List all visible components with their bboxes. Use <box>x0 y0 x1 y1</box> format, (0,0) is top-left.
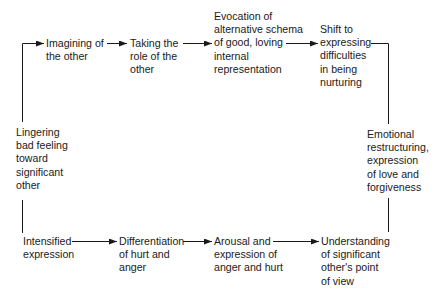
node-shift-expressing-difficulties: Shift to expressing difficulties in bein… <box>320 23 371 89</box>
node-differentiation-hurt-anger: Differentiation of hurt and anger <box>119 235 184 275</box>
line-shift-to-emotional <box>371 44 389 125</box>
arrow-lingering-to-imagining <box>23 44 45 123</box>
node-evocation-alternative-schema: Evocation of alternative schema of good,… <box>214 10 303 76</box>
node-imagining-of-other: Imagining of the other <box>46 37 104 63</box>
node-arousal-expression: Arousal and expression of anger and hurt <box>214 235 283 275</box>
node-understanding-significant-other: Understanding of significant other's poi… <box>321 235 390 288</box>
node-taking-role: Taking the role of the other <box>130 37 178 77</box>
node-emotional-restructuring: Emotional restructuring, expression of l… <box>367 128 429 194</box>
node-lingering-bad-feeling: Lingering bad feeling toward significant… <box>16 126 68 192</box>
node-intensified-expression: Intensified expression <box>23 235 74 261</box>
